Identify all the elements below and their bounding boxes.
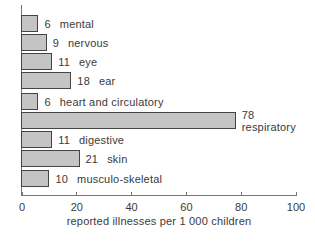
bar-label: 6heart and circulatory	[44, 96, 163, 108]
bar-category: ear	[99, 75, 116, 87]
bar-mental	[21, 15, 38, 32]
bar-label: 18ear	[77, 75, 115, 87]
bar-label: 9nervous	[53, 37, 109, 49]
bar-label: 78respiratory	[242, 109, 296, 133]
bar-value: 6	[44, 96, 50, 108]
bar-label: 6mental	[44, 18, 94, 30]
bar-category: eye	[79, 56, 97, 68]
bar-category: nervous	[68, 37, 109, 49]
bar-digestive	[21, 131, 52, 148]
x-tick-mark	[241, 192, 242, 196]
bar-ear	[21, 72, 71, 89]
bar-label: 21skin	[86, 153, 128, 165]
x-axis-line	[21, 195, 297, 196]
x-tick-mark	[131, 192, 132, 196]
bar-label: 10musculo-skeletal	[55, 173, 162, 185]
x-tick-mark	[22, 192, 23, 196]
x-tick-mark	[296, 192, 297, 196]
x-tick-label: 40	[125, 201, 137, 213]
bar-category: mental	[60, 18, 94, 30]
bar-category: heart and circulatory	[60, 96, 164, 108]
x-tick-label: 0	[19, 201, 25, 213]
bar-musculo-skeletal	[21, 170, 49, 187]
bar-label: 11digestive	[58, 134, 124, 146]
x-tick-label: 60	[180, 201, 192, 213]
x-axis-label: reported illnesses per 1 000 children	[67, 215, 252, 227]
bar-value: 6	[44, 18, 50, 30]
bar-respiratory	[21, 112, 236, 129]
bar-value: 78	[242, 109, 296, 121]
x-tick-label: 100	[287, 201, 305, 213]
bar-value: 21	[86, 153, 99, 165]
bar-value: 11	[58, 134, 70, 146]
x-tick-mark	[76, 192, 77, 196]
bar-value: 18	[77, 75, 90, 87]
bar-category: skin	[107, 153, 127, 165]
x-tick-label: 80	[235, 201, 247, 213]
bar-heart-and-circulatory	[21, 93, 38, 110]
bar-skin	[21, 150, 80, 167]
bar-label: 11eye	[58, 56, 97, 68]
bar-eye	[21, 53, 52, 70]
bar-value: 9	[53, 37, 59, 49]
horizontal-bar-chart: 6mental9nervous11eye18ear6heart and circ…	[0, 0, 315, 241]
bar-category: musculo-skeletal	[77, 173, 162, 185]
bar-nervous	[21, 34, 47, 51]
bar-category: digestive	[79, 134, 124, 146]
bar-category: respiratory	[242, 121, 296, 133]
bar-value: 11	[58, 56, 70, 68]
x-tick-label: 20	[71, 201, 83, 213]
bar-value: 10	[55, 173, 68, 185]
x-tick-mark	[186, 192, 187, 196]
